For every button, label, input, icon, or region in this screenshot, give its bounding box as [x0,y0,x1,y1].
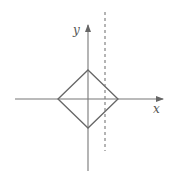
x-axis-label: x [153,102,160,116]
y-axis-label: y [72,23,80,37]
coordinate-diagram: y x [0,0,173,177]
